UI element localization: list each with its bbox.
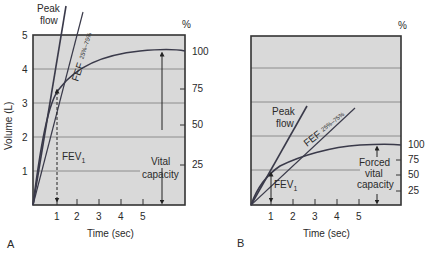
panel-a: 5 4 3 2 1 1 2 3 4 5 Time (sec) Volume (L… [3, 3, 209, 250]
y-axis-label-a: Volume (L) [3, 102, 14, 150]
forced-label-b: Forced [359, 157, 390, 168]
panel-b: 1 2 3 4 5 Time (sec) % 100 75 50 25 Peak… [237, 20, 425, 249]
x-tick-4-b: 4 [334, 211, 340, 222]
x-tick-3: 3 [96, 211, 102, 222]
y-tick-5: 5 [22, 30, 28, 41]
x-tick-5: 5 [140, 211, 146, 222]
capacity-label-b: capacity [357, 179, 394, 190]
y-tick-3: 3 [22, 98, 28, 109]
y-tick-4: 4 [22, 64, 28, 75]
peak-flow-label-b-2: flow [276, 118, 295, 129]
vital-label-b: vital [365, 168, 383, 179]
percent-label-a: % [182, 19, 191, 30]
peak-flow-label-a-2: flow [40, 15, 59, 26]
right-tick-25: 25 [192, 159, 204, 170]
x-tick-4: 4 [118, 211, 124, 222]
x-tick-3-b: 3 [312, 211, 318, 222]
panel-letter-b: B [237, 237, 244, 249]
x-tick-5-b: 5 [356, 211, 362, 222]
x-axis-label-b: Time (sec) [303, 228, 350, 239]
capacity-label-a: capacity [142, 169, 179, 180]
right-tick-25-b: 25 [408, 185, 420, 196]
right-tick-75-b: 75 [408, 154, 420, 165]
x-tick-2-b: 2 [290, 211, 296, 222]
peak-flow-label-b-1: Peak [272, 106, 296, 117]
panel-letter-a: A [7, 238, 15, 250]
x-tick-1-b: 1 [268, 211, 274, 222]
right-tick-75: 75 [192, 83, 204, 94]
right-tick-50-b: 50 [408, 169, 420, 180]
peak-flow-label-a-1: Peak [37, 3, 61, 14]
percent-label-b: % [398, 20, 407, 31]
right-tick-50: 50 [192, 119, 204, 130]
right-tick-100: 100 [192, 46, 209, 57]
x-tick-2: 2 [74, 211, 80, 222]
y-tick-2: 2 [22, 132, 28, 143]
right-tick-100-b: 100 [408, 139, 425, 150]
y-tick-1: 1 [22, 166, 28, 177]
vital-label-a: Vital [151, 156, 170, 167]
x-axis-label-a: Time (sec) [87, 228, 134, 239]
x-tick-1: 1 [54, 211, 60, 222]
spirometry-figure: 5 4 3 2 1 1 2 3 4 5 Time (sec) Volume (L… [0, 0, 427, 257]
